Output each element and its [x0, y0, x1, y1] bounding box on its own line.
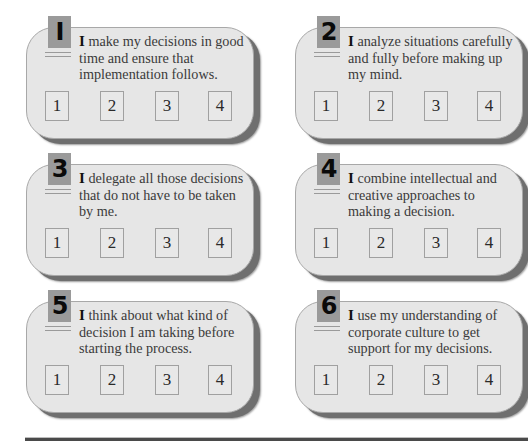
statement-text: use my understanding of corporate cultur… [348, 307, 497, 356]
page-bottom-rule [25, 437, 528, 441]
question-statement: I delegate all those decisions that do n… [79, 170, 251, 220]
rating-option-2[interactable]: 2 [100, 365, 124, 395]
rating-scale: 1 2 3 4 [314, 91, 514, 121]
rating-option-4[interactable]: 4 [477, 91, 501, 121]
rating-option-3[interactable]: 3 [424, 91, 448, 121]
question-number-badge: 5 [48, 290, 71, 322]
rating-scale: 1 2 3 4 [314, 228, 514, 258]
statement-text: analyze situations carefully and fully b… [348, 33, 513, 82]
rating-scale: 1 2 3 4 [45, 365, 245, 395]
rating-option-1[interactable]: 1 [314, 365, 338, 395]
statement-text: combine intellectual and creative approa… [348, 170, 497, 219]
rating-option-2[interactable]: 2 [369, 365, 393, 395]
rating-option-2[interactable]: 2 [369, 228, 393, 258]
question-card-3: 3 I delegate all those decisions that do… [26, 164, 254, 276]
rating-option-1[interactable]: 1 [314, 91, 338, 121]
question-statement: I combine intellectual and creative appr… [348, 170, 520, 220]
rating-option-1[interactable]: 1 [45, 365, 69, 395]
badge-underline [314, 326, 340, 331]
badge-underline [45, 326, 71, 331]
rating-option-1[interactable]: 1 [45, 228, 69, 258]
question-card-5: 5 I think about what kind of decision I … [26, 301, 254, 413]
rating-scale: 1 2 3 4 [45, 91, 245, 121]
rating-option-3[interactable]: 3 [155, 91, 179, 121]
rating-option-1[interactable]: 1 [45, 91, 69, 121]
rating-option-3[interactable]: 3 [424, 365, 448, 395]
rating-option-4[interactable]: 4 [208, 91, 232, 121]
rating-option-3[interactable]: 3 [155, 365, 179, 395]
rating-option-3[interactable]: 3 [155, 228, 179, 258]
badge-underline [45, 52, 71, 57]
rating-option-3[interactable]: 3 [424, 228, 448, 258]
question-card-4: 4 I combine intellectual and creative ap… [295, 164, 523, 276]
question-statement: I think about what kind of decision I am… [79, 307, 251, 357]
badge-underline [45, 189, 71, 194]
statement-text: delegate all those decisions that do not… [79, 170, 243, 219]
question-statement: I analyze situations carefully and fully… [348, 33, 520, 83]
rating-scale: 1 2 3 4 [45, 228, 245, 258]
rating-scale: 1 2 3 4 [314, 365, 514, 395]
badge-underline [314, 52, 340, 57]
question-card-2: 2 I analyze situations carefully and ful… [295, 27, 523, 139]
statement-text: make my decisions in good time and ensur… [79, 33, 244, 82]
question-number-badge: 4 [317, 153, 340, 185]
rating-option-2[interactable]: 2 [100, 228, 124, 258]
question-statement: I make my decisions in good time and ens… [79, 33, 251, 83]
rating-option-4[interactable]: 4 [477, 365, 501, 395]
badge-underline [314, 189, 340, 194]
rating-option-1[interactable]: 1 [314, 228, 338, 258]
rating-option-4[interactable]: 4 [477, 228, 501, 258]
question-card-1: I I make my decisions in good time and e… [26, 27, 254, 139]
question-number-badge: 6 [317, 290, 340, 322]
question-number-badge: 3 [48, 153, 71, 185]
rating-option-2[interactable]: 2 [369, 91, 393, 121]
question-statement: I use my understanding of corporate cult… [348, 307, 520, 357]
rating-option-4[interactable]: 4 [208, 365, 232, 395]
rating-option-4[interactable]: 4 [208, 228, 232, 258]
question-card-6: 6 I use my understanding of corporate cu… [295, 301, 523, 413]
statement-text: think about what kind of decision I am t… [79, 307, 234, 356]
rating-option-2[interactable]: 2 [100, 91, 124, 121]
question-number-badge: 2 [317, 16, 340, 48]
question-number-badge: I [48, 16, 71, 48]
